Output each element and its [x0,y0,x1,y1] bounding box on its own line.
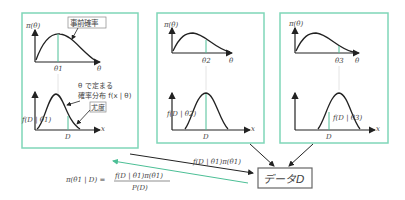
likelihood-curve [318,93,360,129]
theta-tick-label: θ1 [54,65,63,73]
x-axis-label: x [101,125,105,133]
theta-axis-label: θ [355,57,360,65]
formula-numerator: f(D | θ1)π(θ1) [114,172,163,180]
likelihood-callout-label: 尤度 [91,103,105,112]
panel-theta2: π(θ) θ2 θ f(D | θ2) D x [157,13,264,143]
x-axis-label: x [251,125,255,133]
likelihood-value-label: f(D | θ3) [332,114,362,122]
prior-axis-label: π(θ) [163,21,179,29]
prior-callout-arrow [72,28,78,39]
theta-tick-label: θ2 [202,57,211,65]
arrow-panel2-to-data [250,144,274,166]
prior-callout-label: 事前確率 [70,18,99,28]
data-tick-label: D [202,133,209,141]
arrow-panel3-to-data [289,144,313,166]
prior-curve [36,34,96,61]
prior-curve [296,33,353,52]
panel-frame [157,13,264,143]
prior-axis-label: π(θ) [288,20,304,28]
panel-frame [280,13,388,143]
data-tick-label: D [325,133,332,141]
dist-callout-arrow [67,101,80,105]
likelihood-value-label: f(D | θ1) [21,116,51,124]
x-axis-label: x [376,125,380,133]
likelihood-value-label: f(D | θ2) [166,110,196,118]
joint-probability-label: f(D | θ1)π(θ1) [192,158,241,166]
data-tick-label: D [64,133,71,141]
theta-tick-label: θ3 [335,57,344,65]
prior-curve [173,33,230,52]
bayes-diagram: π(θ) θ1 θ 事前確率 f(D | θ1) D x θ で定まる 確率分布… [0,0,405,200]
prior-axis-label: π(θ) [25,22,41,30]
dist-callout-line1: θ で定まる [78,81,113,90]
panel-theta1: π(θ) θ1 θ 事前確率 f(D | θ1) D x θ で定まる 確率分布… [21,13,138,148]
theta-axis-label: θ [97,65,102,73]
formula-lhs: π(θ1 | D) = [65,176,105,184]
formula-denominator: P(D) [131,184,148,192]
panel-theta3: π(θ) θ3 θ f(D | θ3) D x [280,13,388,143]
data-box-label: データD [263,173,304,186]
theta-axis-label: θ [229,57,234,65]
panel-frame [22,13,138,148]
likelihood-callout-arrow [77,110,90,124]
dist-callout-line2: 確率分布 f(x | θ) [78,91,132,100]
bayes-formula: π(θ1 | D) = f(D | θ1)π(θ1) P(D) [65,172,170,192]
